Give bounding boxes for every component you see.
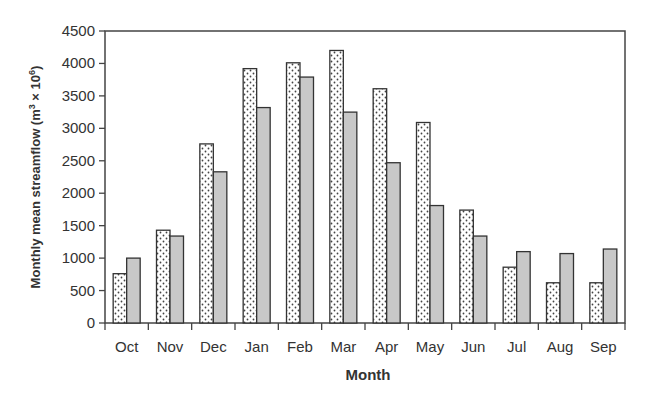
y-tick-label-3500: 3500 <box>62 87 95 104</box>
y-tick-label-0: 0 <box>87 314 95 331</box>
bar-gray-aug <box>560 254 574 323</box>
bar-gray-jun <box>473 236 487 323</box>
bar-dotted-sep <box>590 283 604 323</box>
bar-gray-feb <box>300 77 314 323</box>
bar-gray-nov <box>170 236 184 323</box>
bar-dotted-jul <box>503 267 516 323</box>
bar-dotted-mar <box>330 50 344 323</box>
y-axis: 050010001500200025003000350040004500 <box>62 22 105 331</box>
bar-dotted-nov <box>157 230 171 323</box>
bar-dotted-feb <box>287 63 301 323</box>
y-axis-title: Monthly mean streamflow (m3 × 106) <box>27 66 43 289</box>
x-tick-label-apr: Apr <box>375 338 398 355</box>
y-tick-label-1500: 1500 <box>62 217 95 234</box>
y-tick-label-4500: 4500 <box>62 22 95 39</box>
x-tick-label-dec: Dec <box>200 338 227 355</box>
bar-dotted-may <box>417 122 431 323</box>
bar-gray-dec <box>213 172 227 323</box>
bar-gray-oct <box>127 258 140 323</box>
x-tick-label-aug: Aug <box>547 338 574 355</box>
x-tick-label-jan: Jan <box>245 338 269 355</box>
x-axis: OctNovDecJanFebMarAprMayJunJulAugSep <box>105 323 625 355</box>
bar-dotted-aug <box>547 283 561 323</box>
bar-dotted-jan <box>243 69 257 323</box>
y-tick-label-2500: 2500 <box>62 152 95 169</box>
bar-gray-apr <box>387 163 401 323</box>
x-tick-label-jul: Jul <box>507 338 526 355</box>
bar-gray-mar <box>343 112 357 323</box>
x-tick-label-nov: Nov <box>157 338 184 355</box>
bar-dotted-dec <box>200 144 214 323</box>
bar-gray-may <box>430 206 444 323</box>
y-tick-label-500: 500 <box>70 282 95 299</box>
y-tick-label-2000: 2000 <box>62 184 95 201</box>
chart: 050010001500200025003000350040004500 Oct… <box>0 0 647 401</box>
bar-dotted-oct <box>113 274 127 323</box>
bar-gray-jul <box>517 252 531 323</box>
x-tick-label-sep: Sep <box>590 338 617 355</box>
x-tick-label-may: May <box>416 338 445 355</box>
x-axis-title: Month <box>346 366 391 383</box>
x-tick-label-mar: Mar <box>330 338 356 355</box>
x-tick-label-oct: Oct <box>115 338 139 355</box>
bar-dotted-jun <box>460 210 474 323</box>
bar-dotted-apr <box>373 89 387 323</box>
x-tick-label-jun: Jun <box>461 338 485 355</box>
y-tick-label-1000: 1000 <box>62 249 95 266</box>
y-tick-label-3000: 3000 <box>62 119 95 136</box>
y-tick-label-4000: 4000 <box>62 54 95 71</box>
bars-group <box>113 50 617 323</box>
bar-gray-sep <box>603 249 617 323</box>
x-tick-label-feb: Feb <box>287 338 313 355</box>
bar-gray-jan <box>257 108 271 323</box>
